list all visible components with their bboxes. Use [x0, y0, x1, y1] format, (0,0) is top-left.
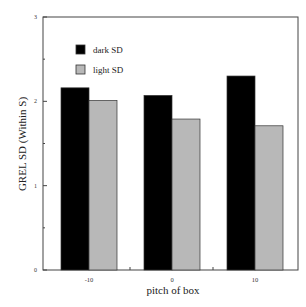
legend-swatch: [76, 45, 85, 54]
y-axis-label: GREL SD (Within S): [16, 84, 28, 204]
legend-swatch: [76, 65, 85, 74]
bar: [144, 95, 172, 270]
plot-area: 0123-10010dark SDlight SD: [34, 14, 298, 283]
y-tick-label: 2: [34, 98, 37, 104]
legend-label: light SD: [93, 65, 124, 75]
x-tick-label: 10: [252, 276, 259, 283]
y-tick-label: 3: [34, 14, 37, 20]
y-tick-label: 0: [34, 267, 37, 273]
chart-canvas: 0123-10010dark SDlight SD: [0, 0, 306, 307]
x-tick-label: -10: [85, 276, 94, 283]
bar: [89, 100, 117, 270]
x-tick-label: 0: [170, 276, 173, 283]
bar: [61, 88, 89, 270]
bar: [172, 119, 200, 270]
y-tick-label: 1: [34, 183, 37, 189]
legend-label: dark SD: [93, 45, 123, 55]
bar: [227, 76, 255, 270]
bar: [255, 126, 283, 270]
x-axis-label: pitch of box: [0, 284, 306, 296]
